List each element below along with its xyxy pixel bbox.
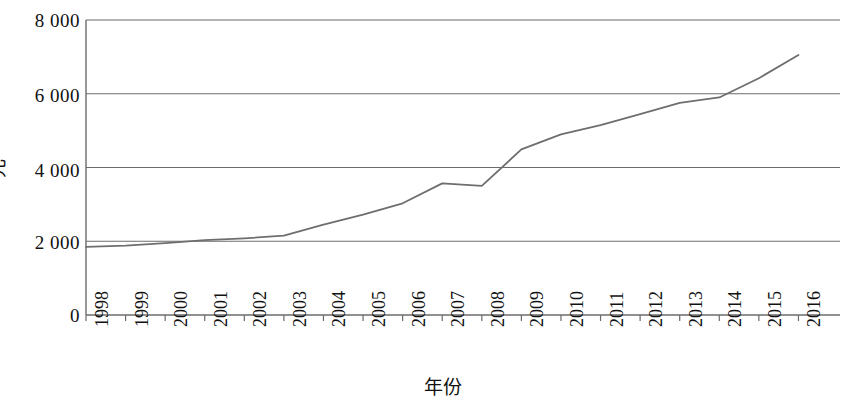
x-tick-label-2002: 2002	[251, 267, 269, 327]
x-axis-title: 年份	[0, 372, 858, 399]
x-tick-label-2009: 2009	[528, 267, 546, 327]
x-tick-label-2011: 2011	[608, 267, 626, 327]
x-tick-label-2000: 2000	[172, 267, 190, 327]
x-tick-label-2004: 2004	[330, 267, 348, 327]
x-tick-label-2010: 2010	[568, 267, 586, 327]
x-tick-label-2005: 2005	[370, 267, 388, 327]
data-series-line	[86, 55, 798, 247]
x-tick-label-2001: 2001	[212, 267, 230, 327]
x-tick-label-2012: 2012	[647, 267, 665, 327]
x-tick-label-2007: 2007	[449, 267, 467, 327]
x-tick-label-1999: 1999	[133, 267, 151, 327]
x-tick-label-2013: 2013	[687, 267, 705, 327]
x-tick-label-2003: 2003	[291, 267, 309, 327]
x-tick-label-2014: 2014	[726, 267, 744, 327]
gridlines	[86, 20, 840, 241]
x-tick-label-1998: 1998	[93, 267, 111, 327]
x-tick-label-2006: 2006	[410, 267, 428, 327]
x-tick-label-2008: 2008	[489, 267, 507, 327]
x-tick-label-2015: 2015	[766, 267, 784, 327]
x-axis-title-text: 年份	[424, 372, 462, 399]
line-chart: 元 8 000 6 000 4 000 2 000 0 199819992000…	[0, 0, 858, 400]
x-tick-label-2016: 2016	[805, 267, 823, 327]
